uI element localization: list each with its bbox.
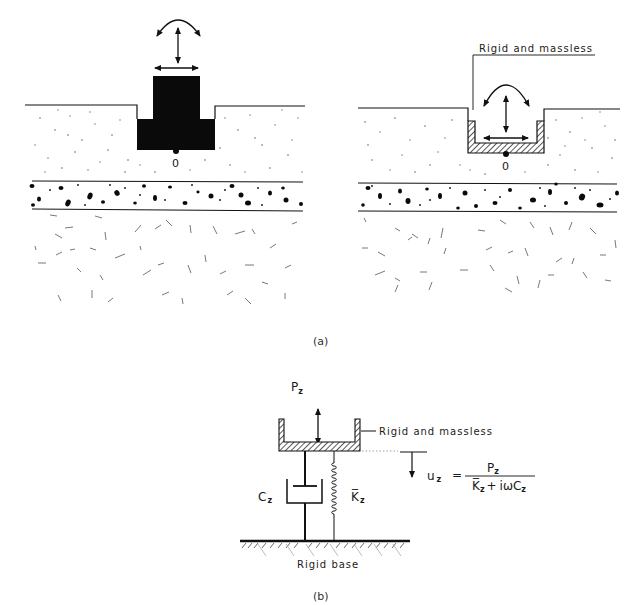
soil-fibers-left — [35, 215, 297, 304]
spring-label: K̅z — [351, 489, 365, 505]
panel-a-left: 0 — [25, 20, 305, 304]
ground-surface-right — [358, 108, 620, 121]
container-annotation: Rigid and massless — [379, 426, 493, 437]
origin-point-right — [503, 151, 509, 157]
origin-label-right: 0 — [502, 160, 509, 173]
displacement-formula: uz = Pz K̅z+iωCz — [427, 461, 535, 494]
gravel-top-right — [358, 183, 617, 184]
panel-a-right: 0 Rigid and massless — [358, 43, 620, 292]
figure-canvas: 0 — [0, 0, 638, 605]
gravel-stones-left — [30, 184, 304, 207]
gravel-top-left — [32, 181, 303, 182]
formula-numerator: Pz — [487, 461, 499, 476]
rigid-massless-container — [279, 419, 360, 451]
rigid-base-label: Rigid base — [297, 559, 359, 570]
rigid-base-hatching — [242, 543, 404, 556]
annotation-leader-right — [473, 55, 595, 110]
origin-point-left — [173, 148, 179, 154]
foundation-block-solid — [137, 76, 215, 150]
spring-icon — [332, 451, 337, 541]
formula-lhs: uz — [427, 469, 442, 484]
caption-a: (a) — [313, 335, 328, 348]
damper-label: Cz — [258, 490, 272, 505]
formula-equals: = — [452, 468, 462, 482]
panel-b: Pz Rigid and massless uz = Pz K̅z+iωCz C… — [240, 380, 535, 570]
formula-denominator: K̅z+iωCz — [472, 478, 526, 494]
load-label: Pz — [291, 380, 303, 396]
soil-fibers-right — [362, 218, 616, 292]
caption-b: (b) — [313, 590, 329, 603]
gravel-bottom-left — [32, 209, 303, 211]
gravel-bottom-right — [358, 211, 617, 212]
origin-label-left: 0 — [172, 157, 179, 170]
gravel-stones-right — [361, 182, 619, 209]
annotation-rigid-massless-a: Rigid and massless — [479, 43, 593, 54]
